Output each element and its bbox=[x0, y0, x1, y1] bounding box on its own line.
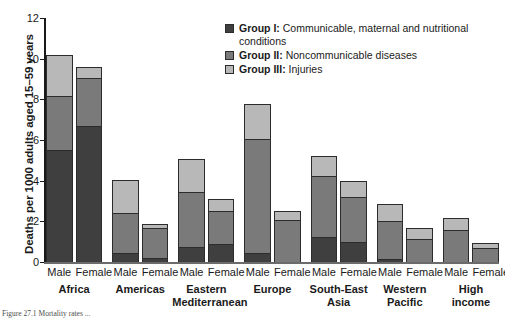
x-label-region: South-EastAsia bbox=[305, 283, 373, 308]
bar-segment-group-2 bbox=[208, 211, 235, 244]
stacked-bar bbox=[443, 218, 470, 262]
legend-item: Group III: Injuries bbox=[225, 63, 497, 76]
x-label-sex: Male bbox=[178, 266, 205, 278]
bar-segment-group-2 bbox=[46, 96, 73, 150]
bar-segment-group-1 bbox=[311, 237, 338, 262]
stacked-bar bbox=[377, 204, 404, 262]
x-label-sex: Male bbox=[443, 266, 470, 278]
x-label-region: Highincome bbox=[437, 283, 505, 308]
y-tick-mark bbox=[40, 140, 44, 141]
bar-segment-group-3 bbox=[208, 199, 235, 211]
legend-swatch-icon bbox=[225, 51, 234, 60]
bar-segment-group-1 bbox=[208, 244, 235, 262]
y-tick-mark bbox=[40, 59, 44, 60]
bar-segment-group-2 bbox=[311, 176, 338, 237]
bar-segment-group-1 bbox=[178, 247, 205, 262]
x-label-sex: Female bbox=[208, 266, 235, 278]
legend: Group I: Communicable, maternal and nutr… bbox=[225, 22, 497, 77]
x-label-sex: Male bbox=[311, 266, 338, 278]
bar-segment-group-3 bbox=[46, 55, 73, 97]
x-label-sex: Female bbox=[406, 266, 433, 278]
stacked-bar bbox=[178, 159, 205, 262]
stacked-bar bbox=[208, 199, 235, 262]
figure-container: Deaths per 1000 adults aged 15–59 years … bbox=[0, 0, 505, 318]
stacked-bar bbox=[311, 156, 338, 262]
bar-segment-group-3 bbox=[76, 67, 103, 78]
y-tick-mark bbox=[40, 18, 44, 19]
legend-label: Group II: Noncommunicable diseases bbox=[239, 49, 497, 62]
y-tick-mark bbox=[40, 99, 44, 100]
legend-item: Group II: Noncommunicable diseases bbox=[225, 49, 497, 62]
bar-segment-group-2 bbox=[142, 228, 169, 257]
bar-segment-group-2 bbox=[377, 221, 404, 259]
x-label-region: Americas bbox=[106, 283, 174, 296]
y-tick-label: 12 bbox=[27, 13, 39, 24]
legend-swatch-icon bbox=[225, 65, 234, 74]
bar-segment-group-2 bbox=[178, 192, 205, 247]
bar-segment-group-2 bbox=[443, 230, 470, 262]
y-tick-label: 0 bbox=[33, 257, 39, 268]
x-label-sex: Male bbox=[46, 266, 73, 278]
bar-segment-group-3 bbox=[377, 204, 404, 221]
bar-segment-group-2 bbox=[76, 78, 103, 126]
bar-segment-group-1 bbox=[244, 253, 271, 262]
y-tick-label: 6 bbox=[33, 135, 39, 146]
stacked-bar bbox=[244, 104, 271, 262]
bar-segment-group-3 bbox=[274, 211, 301, 220]
y-tick-mark bbox=[40, 262, 44, 263]
x-label-sex: Female bbox=[274, 266, 301, 278]
bar-segment-group-3 bbox=[406, 228, 433, 238]
bar-segment-group-2 bbox=[406, 239, 433, 262]
figure-caption: Figure 27.1 Mortality rates ... bbox=[2, 309, 502, 318]
bar-segment-group-1 bbox=[340, 242, 367, 262]
x-axis-line bbox=[44, 262, 499, 264]
y-tick-label: 8 bbox=[33, 94, 39, 105]
y-tick-label: 4 bbox=[33, 175, 39, 186]
stacked-bar bbox=[142, 224, 169, 262]
stacked-bar bbox=[340, 181, 367, 262]
x-label-region: Europe bbox=[238, 283, 306, 296]
stacked-bar bbox=[406, 228, 433, 262]
legend-item: Group I: Communicable, maternal and nutr… bbox=[225, 22, 497, 48]
bar-segment-group-2 bbox=[244, 139, 271, 253]
bar-segment-group-3 bbox=[311, 156, 338, 175]
bar-segment-group-2 bbox=[274, 220, 301, 262]
legend-swatch-icon bbox=[225, 24, 234, 33]
legend-group-name: Group I: bbox=[239, 22, 280, 34]
y-tick-label: 10 bbox=[27, 53, 39, 64]
bar-segment-group-3 bbox=[112, 180, 139, 214]
x-label-sex: Male bbox=[244, 266, 271, 278]
x-label-sex: Male bbox=[377, 266, 404, 278]
bar-segment-group-2 bbox=[472, 248, 499, 262]
y-tick-mark bbox=[40, 181, 44, 182]
x-label-sex: Male bbox=[112, 266, 139, 278]
stacked-bar bbox=[76, 67, 103, 262]
stacked-bar bbox=[472, 243, 499, 262]
bar-segment-group-2 bbox=[340, 197, 367, 242]
y-tick-label: 2 bbox=[33, 216, 39, 227]
y-tick-mark bbox=[40, 221, 44, 222]
legend-group-name: Group II: bbox=[239, 49, 283, 61]
bar-segment-group-1 bbox=[76, 126, 103, 262]
bar-segment-group-3 bbox=[443, 218, 470, 230]
stacked-bar bbox=[274, 211, 301, 262]
stacked-bar bbox=[112, 180, 139, 262]
bar-segment-group-1 bbox=[112, 253, 139, 262]
bar-segment-group-2 bbox=[112, 213, 139, 253]
legend-group-name: Group III: bbox=[239, 63, 286, 75]
x-label-region: Africa bbox=[40, 283, 108, 296]
bar-segment-group-3 bbox=[340, 181, 367, 197]
x-label-sex: Female bbox=[76, 266, 103, 278]
bar-segment-group-1 bbox=[142, 258, 169, 262]
x-label-sex: Female bbox=[472, 266, 499, 278]
legend-label: Group I: Communicable, maternal and nutr… bbox=[239, 22, 497, 48]
x-label-region: EasternMediterranean bbox=[172, 283, 240, 308]
bar-segment-group-3 bbox=[178, 159, 205, 192]
bar-segment-group-1 bbox=[46, 150, 73, 262]
x-label-sex: Female bbox=[142, 266, 169, 278]
legend-label: Group III: Injuries bbox=[239, 63, 497, 76]
x-label-sex: Female bbox=[340, 266, 367, 278]
bar-segment-group-3 bbox=[244, 104, 271, 139]
bar-segment-group-1 bbox=[377, 259, 404, 262]
stacked-bar bbox=[46, 55, 73, 262]
